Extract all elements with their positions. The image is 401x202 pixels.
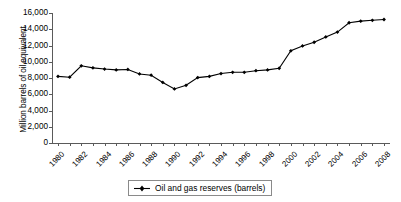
data-point-marker bbox=[103, 67, 107, 71]
data-point-marker bbox=[301, 44, 305, 48]
x-tick-label: 1990 bbox=[160, 150, 183, 173]
data-point-marker bbox=[312, 40, 316, 44]
y-tick-label: 14,000 bbox=[23, 25, 48, 33]
data-point-marker bbox=[242, 70, 246, 74]
x-tick-label: 2002 bbox=[300, 150, 323, 173]
plot-area: 16,00014,00012,00010,0008,0006,0004,0002… bbox=[52, 13, 389, 143]
data-point-marker bbox=[207, 74, 211, 78]
y-tick-label: 6,000 bbox=[28, 90, 49, 98]
y-tick-label: 2,000 bbox=[28, 123, 49, 131]
x-tick-label: 2006 bbox=[346, 150, 369, 173]
y-tick-label: 8,000 bbox=[28, 74, 49, 82]
y-tick-label: 12,000 bbox=[23, 41, 48, 49]
x-tick-label: 1988 bbox=[137, 150, 160, 173]
data-point-marker bbox=[254, 69, 258, 73]
x-tick-label: 1992 bbox=[183, 150, 206, 173]
y-tick-label: 16,000 bbox=[23, 9, 48, 17]
chart-container: Million barrels of oil equivalent 16,000… bbox=[0, 0, 401, 202]
legend-line-marker-icon bbox=[133, 184, 151, 193]
data-point-marker bbox=[382, 18, 386, 22]
data-point-marker bbox=[91, 66, 95, 70]
x-tick-label: 2008 bbox=[370, 150, 393, 173]
x-tick-label: 1982 bbox=[67, 150, 90, 173]
data-point-marker bbox=[370, 18, 374, 22]
x-tick-label: 1984 bbox=[90, 150, 113, 173]
data-point-marker bbox=[138, 72, 142, 76]
data-point-marker bbox=[266, 68, 270, 72]
x-tick-label: 1980 bbox=[44, 150, 67, 173]
y-tick-label: 10,000 bbox=[23, 58, 48, 66]
data-point-marker bbox=[114, 68, 118, 72]
y-tick-label: 4,000 bbox=[28, 106, 49, 114]
x-tick-label: 1996 bbox=[230, 150, 253, 173]
chart-legend: Oil and gas reserves (barrels) bbox=[128, 180, 272, 196]
x-tick-label: 1986 bbox=[113, 150, 136, 173]
data-point-marker bbox=[126, 68, 130, 72]
data-point-marker bbox=[359, 19, 363, 23]
legend-label-oil-and-gas-reserves: Oil and gas reserves (barrels) bbox=[155, 183, 265, 193]
x-tick-label: 1998 bbox=[253, 150, 276, 173]
series-line bbox=[58, 20, 384, 89]
x-tick-label: 2004 bbox=[323, 150, 346, 173]
data-point-marker bbox=[324, 35, 328, 39]
data-series-oil-and-gas-reserves bbox=[52, 13, 390, 144]
x-tick-label: 1994 bbox=[207, 150, 230, 173]
data-point-marker bbox=[219, 72, 223, 76]
series-markers bbox=[56, 18, 386, 91]
y-tick-label: 0 bbox=[43, 139, 48, 147]
data-point-marker bbox=[56, 74, 60, 78]
x-tick-label: 2000 bbox=[276, 150, 299, 173]
data-point-marker bbox=[231, 70, 235, 74]
